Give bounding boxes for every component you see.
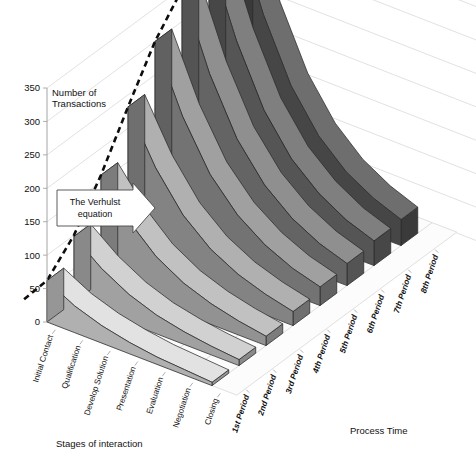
- period-label-4: 5th Period: [338, 313, 359, 355]
- z-tick-label-350: 350: [24, 82, 40, 93]
- period-label-7: 8th Period: [419, 253, 440, 295]
- y-tick-7: [435, 250, 438, 253]
- x-tick-4: [162, 372, 165, 376]
- y-tick-label-group-2: 3rd Period: [284, 353, 305, 395]
- z-tick-label-100: 100: [24, 250, 40, 261]
- x-tick-label-group-1: Qualification: [60, 344, 83, 390]
- z-tick-label-250: 250: [24, 149, 40, 160]
- y-tick-1: [273, 370, 276, 373]
- category-label-3: Presentation: [115, 365, 138, 412]
- x-tick-1: [80, 340, 83, 344]
- gridline-far-350: [267, 0, 476, 6]
- y-tick-label-group-3: 4th Period: [311, 333, 333, 376]
- category-label-5: Negotiation: [171, 386, 192, 429]
- period-label-5: 6th Period: [365, 293, 386, 335]
- y-tick-4: [354, 310, 357, 313]
- x-tick-5: [190, 383, 193, 387]
- z-tick-label-50: 50: [29, 283, 40, 294]
- y-tick-label-group-7: 8th Period: [419, 253, 440, 295]
- x-tick-label-group-5: Negotiation: [171, 386, 192, 429]
- x-tick-3: [135, 362, 138, 366]
- y-tick-label-group-1: 2nd Period: [256, 373, 278, 418]
- chart-canvas: 050100150200250300350Number ofTransactio…: [0, 0, 476, 463]
- x-tick-label-group-0: Initial Contact: [31, 333, 55, 384]
- category-label-4: Evaluation: [145, 376, 166, 416]
- period-label-3: 4th Period: [311, 333, 333, 376]
- x-tick-0: [52, 330, 55, 334]
- x-tick-6: [217, 393, 220, 397]
- y-tick-label-group-4: 5th Period: [338, 313, 359, 355]
- chart-3d-area: 050100150200250300350Number ofTransactio…: [0, 0, 476, 463]
- y-axis-title: Process Time: [350, 425, 408, 436]
- period-label-6: 7th Period: [392, 273, 413, 315]
- gridline-far-300: [267, 0, 476, 40]
- category-label-6: Closing: [203, 397, 220, 426]
- category-label-0: Initial Contact: [31, 333, 55, 384]
- x-tick-label-group-2: Develop Solution: [83, 354, 111, 416]
- period-label-2: 3rd Period: [284, 353, 305, 395]
- y-tick-2: [300, 350, 303, 353]
- x-tick-label-group-3: Presentation: [115, 365, 138, 412]
- z-tick-label-0: 0: [35, 316, 40, 327]
- x-tick-label-group-6: Closing: [203, 397, 220, 426]
- y-tick-label-group-0: 1st Period: [230, 393, 251, 434]
- z-tick-label-200: 200: [24, 183, 40, 194]
- x-tick-2: [107, 351, 110, 355]
- period-label-0: 1st Period: [230, 393, 251, 434]
- period-label-1: 2nd Period: [256, 373, 278, 418]
- y-tick-3: [327, 330, 330, 333]
- y-tick-5: [381, 290, 384, 293]
- z-tick-label-300: 300: [24, 116, 40, 127]
- y-tick-0: [246, 390, 249, 393]
- y-tick-6: [408, 270, 411, 273]
- y-tick-label-group-6: 7th Period: [392, 273, 413, 315]
- y-tick-label-group-5: 6th Period: [365, 293, 386, 335]
- category-label-1: Qualification: [60, 344, 83, 390]
- category-label-2: Develop Solution: [83, 354, 111, 416]
- x-axis-title: Stages of interaction: [56, 438, 143, 449]
- x-tick-label-group-4: Evaluation: [145, 376, 166, 416]
- z-axis-title: Number ofTransactions: [52, 87, 106, 109]
- z-tick-label-150: 150: [24, 216, 40, 227]
